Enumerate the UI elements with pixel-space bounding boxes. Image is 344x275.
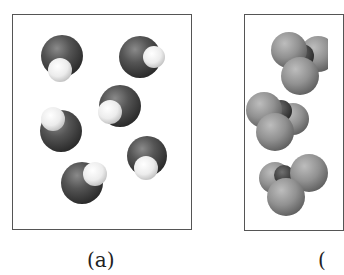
molecule-b1 [271, 32, 328, 95]
molecule-b3 [259, 154, 328, 216]
molecule-a3 [98, 85, 141, 127]
molecule-a1 [41, 35, 83, 82]
molecule-b2 [246, 92, 309, 151]
molecule-a2 [119, 36, 165, 78]
molecule-a4 [40, 107, 82, 152]
panel-a-label: (a) [87, 248, 115, 272]
panel-b-label: ( [318, 248, 326, 272]
molecule-a5 [127, 136, 167, 180]
molecule-a6 [61, 162, 107, 204]
